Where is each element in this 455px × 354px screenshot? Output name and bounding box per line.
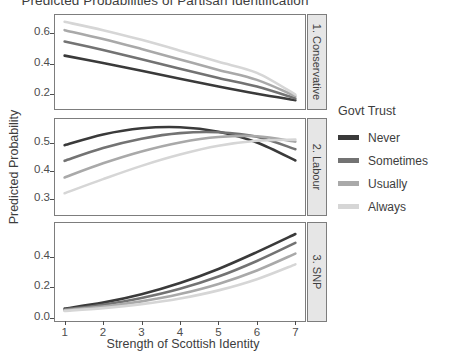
- x-axis-title: Strength of Scottish Identity: [48, 337, 318, 351]
- legend-key-swatch: [338, 135, 359, 140]
- y-tick-label: 0.4: [10, 56, 50, 68]
- legend-item-label: Always: [368, 200, 406, 214]
- facet-strip-label: 2. Labour: [311, 144, 323, 190]
- y-tick-mark: [50, 64, 54, 65]
- facet-strip-label: 3. SNP: [311, 255, 323, 290]
- y-tick-mark: [50, 199, 54, 200]
- series-line: [65, 136, 296, 178]
- chart-title: Predicted Probabilities of Partisan Iden…: [0, 0, 330, 8]
- legend-item-label: Usually: [368, 177, 407, 191]
- y-tick-mark: [50, 257, 54, 258]
- y-tick-label: 0.0: [10, 310, 50, 322]
- y-tick-mark: [50, 143, 54, 144]
- y-tick-label: 0.4: [10, 249, 50, 261]
- series-line: [65, 56, 296, 101]
- x-tick-mark: [142, 321, 143, 325]
- series-line: [65, 140, 296, 194]
- x-tick-mark: [180, 321, 181, 325]
- facet-strip: 3. SNP: [307, 222, 327, 322]
- facet-panel: [54, 14, 306, 110]
- y-tick-mark: [50, 287, 54, 288]
- y-tick-label: 0.2: [10, 279, 50, 291]
- facet-strip: 2. Labour: [307, 118, 327, 216]
- y-tick-label: 0.4: [10, 163, 50, 175]
- y-tick-label: 0.6: [10, 25, 50, 37]
- y-tick-label: 0.3: [10, 191, 50, 203]
- x-tick-label: 5: [208, 326, 228, 338]
- y-tick-mark: [50, 318, 54, 319]
- legend-item-label: Sometimes: [368, 154, 428, 168]
- facet-strip-label: 1. Conservative: [311, 24, 323, 100]
- x-tick-label: 7: [285, 326, 305, 338]
- legend-key-swatch: [338, 204, 359, 209]
- legend-items: NeverSometimesUsuallyAlways: [338, 127, 428, 217]
- x-tick-label: 4: [170, 326, 190, 338]
- x-tick-label: 2: [93, 326, 113, 338]
- y-tick-label: 0.2: [10, 86, 50, 98]
- x-tick-mark: [257, 321, 258, 325]
- facet-strip: 1. Conservative: [307, 14, 327, 110]
- x-tick-label: 1: [55, 326, 75, 338]
- legend-item[interactable]: Never: [338, 127, 428, 148]
- y-tick-mark: [50, 33, 54, 34]
- x-tick-label: 3: [132, 326, 152, 338]
- legend-key-swatch: [338, 158, 359, 163]
- x-tick-mark: [65, 321, 66, 325]
- facet-panel: [54, 118, 306, 216]
- x-tick-mark: [103, 321, 104, 325]
- legend-item[interactable]: Sometimes: [338, 150, 428, 171]
- y-tick-mark: [50, 94, 54, 95]
- y-tick-label: 0.5: [10, 135, 50, 147]
- chart-figure: Predicted Probabilities of Partisan Iden…: [0, 0, 455, 354]
- x-tick-mark: [218, 321, 219, 325]
- legend-title: Govt Trust: [338, 104, 428, 118]
- facet-panel: [54, 222, 306, 322]
- x-tick-label: 6: [247, 326, 267, 338]
- legend-item[interactable]: Usually: [338, 173, 428, 194]
- legend-item[interactable]: Always: [338, 196, 428, 217]
- legend-item-label: Never: [368, 131, 400, 145]
- legend-key-swatch: [338, 181, 359, 186]
- y-tick-mark: [50, 171, 54, 172]
- x-tick-mark: [295, 321, 296, 325]
- legend: Govt Trust NeverSometimesUsuallyAlways: [338, 104, 428, 219]
